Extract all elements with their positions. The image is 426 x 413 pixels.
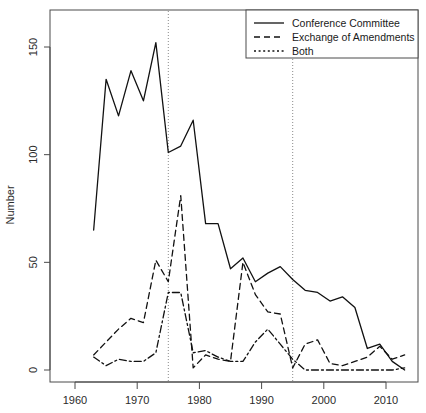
legend-label: Both xyxy=(292,45,314,57)
legend-label: Exchange of Amendments xyxy=(292,31,415,43)
x-tick-label: 2010 xyxy=(374,394,398,406)
x-tick-label: 1980 xyxy=(187,394,211,406)
y-tick-label: 0 xyxy=(27,367,39,373)
x-axis-ticks: 196019701980199020002010 xyxy=(63,382,398,406)
y-tick-label: 50 xyxy=(27,256,39,268)
plot-frame xyxy=(50,10,418,382)
x-tick-label: 2000 xyxy=(312,394,336,406)
y-tick-label: 150 xyxy=(27,38,39,56)
chart-legend: Conference CommitteeExchange of Amendmen… xyxy=(246,10,418,58)
data-series-group xyxy=(94,43,405,370)
y-tick-label: 100 xyxy=(27,145,39,163)
legend-label: Conference Committee xyxy=(292,17,400,29)
line-chart: 050100150 196019701980199020002010 Numbe… xyxy=(0,0,426,413)
y-axis-title: Number xyxy=(4,185,16,224)
series-line-2 xyxy=(94,292,405,370)
chart-container: 050100150 196019701980199020002010 Numbe… xyxy=(0,0,426,413)
y-axis-ticks: 050100150 xyxy=(27,38,50,373)
series-line-1 xyxy=(94,196,405,368)
y-axis-title-label: Number xyxy=(4,185,16,224)
x-tick-label: 1960 xyxy=(63,394,87,406)
x-tick-label: 1970 xyxy=(125,394,149,406)
x-tick-label: 1990 xyxy=(249,394,273,406)
